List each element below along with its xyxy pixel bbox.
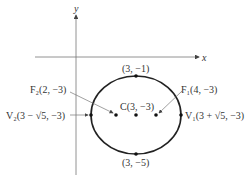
- label-center: C(3, −3): [120, 101, 154, 113]
- point-focus2: [114, 113, 118, 117]
- point-focus1: [154, 113, 158, 117]
- y-axis-label: y: [73, 3, 79, 14]
- label-focus1: F₁(4, −3): [181, 84, 217, 96]
- point-vertex2: [89, 113, 93, 117]
- label-top: (3, −1): [122, 63, 149, 75]
- point-bottom: [134, 152, 138, 156]
- point-top: [134, 74, 138, 78]
- label-vertex2: V₂(3 − √5, −3): [6, 110, 65, 122]
- label-bottom: (3, −5): [122, 157, 149, 169]
- point-center: [134, 113, 138, 117]
- point-vertex1: [179, 113, 183, 117]
- label-vertex1: V₁(3 + √5, −3): [185, 110, 244, 122]
- x-axis-label: x: [201, 52, 207, 63]
- label-focus2: F₂(2, −3): [30, 84, 66, 96]
- ellipse-diagram: x y (3, −1) (3, −5) C(3, −3) F₂(2, −3) F…: [0, 0, 249, 180]
